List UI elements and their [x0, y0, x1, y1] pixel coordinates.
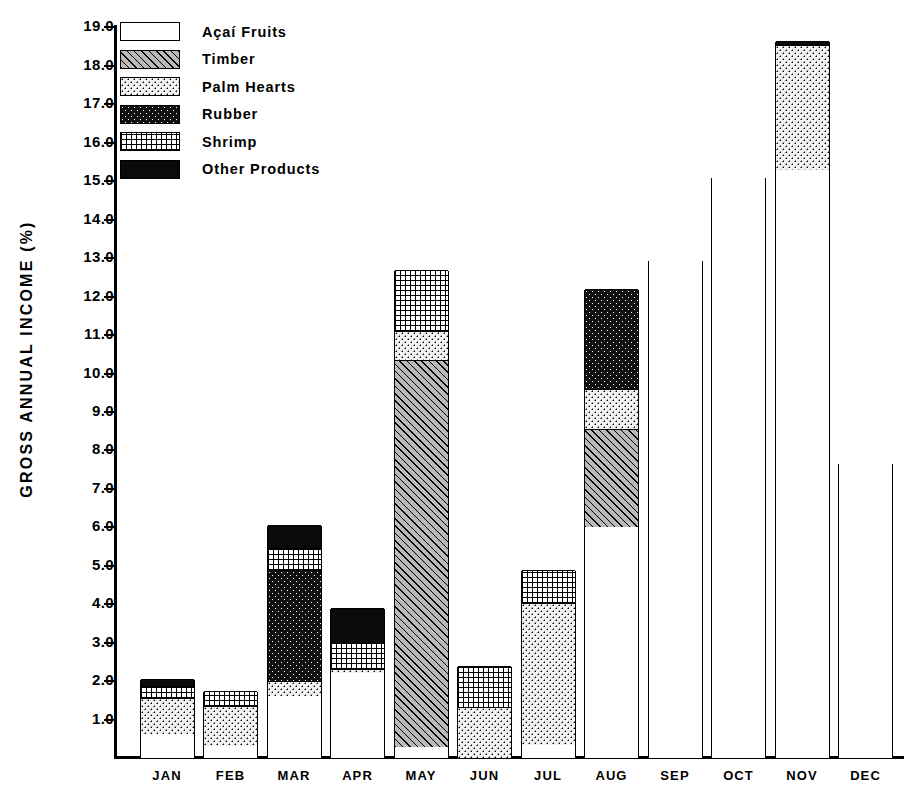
- segment-jan-palm-hearts: [141, 698, 194, 735]
- segment-may-a-a-fruits: [395, 747, 448, 758]
- legend-item-rubber: Rubber: [120, 101, 440, 129]
- segment-apr-shrimp: [331, 643, 384, 669]
- segment-aug-a-a-fruits: [585, 527, 638, 758]
- segment-jan-shrimp: [141, 686, 194, 698]
- segment-apr-a-a-fruits: [331, 673, 384, 758]
- segment-may-timber: [395, 360, 448, 747]
- x-label-nov: NOV: [786, 768, 817, 783]
- legend-swatch-icon: [120, 132, 180, 151]
- segment-mar-palm-hearts: [268, 681, 321, 696]
- segment-apr-palm-hearts: [331, 669, 384, 674]
- x-label-may: MAY: [406, 768, 437, 783]
- segment-nov-a-a-fruits: [776, 170, 829, 758]
- segment-nov-other-products: [776, 41, 829, 45]
- x-label-dec: DEC: [850, 768, 881, 783]
- bar-aug: [584, 290, 639, 759]
- legend-item-palm-hearts: Palm Hearts: [120, 73, 440, 101]
- segment-jul-a-a-fruits: [522, 745, 575, 758]
- bar-jul: [521, 571, 576, 759]
- legend-label: Palm Hearts: [202, 79, 296, 95]
- bar-mar: [267, 526, 322, 759]
- x-label-oct: OCT: [723, 768, 754, 783]
- segment-jul-shrimp: [522, 570, 575, 604]
- bar-sep: [648, 261, 703, 759]
- legend-item-other-products: Other Products: [120, 156, 440, 184]
- segment-mar-shrimp: [268, 548, 321, 569]
- x-label-feb: FEB: [216, 768, 245, 783]
- x-label-jun: JUN: [470, 768, 499, 783]
- legend-swatch-icon: [120, 77, 180, 96]
- segment-mar-other-products: [268, 525, 321, 548]
- y-axis-title: GROSS ANNUAL INCOME (%): [18, 209, 36, 509]
- legend-label: Other Products: [202, 161, 320, 177]
- x-label-mar: MAR: [278, 768, 311, 783]
- bar-oct: [711, 178, 766, 759]
- segment-feb-a-a-fruits: [204, 746, 257, 758]
- bar-feb: [203, 692, 258, 759]
- bar-may: [394, 271, 449, 759]
- segment-feb-shrimp: [204, 691, 257, 706]
- segment-jul-palm-hearts: [522, 603, 575, 744]
- segment-may-shrimp: [395, 270, 448, 332]
- segment-dec-a-a-fruits: [839, 463, 892, 758]
- legend-label: Shrimp: [202, 134, 257, 150]
- legend-item-shrimp: Shrimp: [120, 128, 440, 156]
- chart-legend: Açaí FruitsTimberPalm HeartsRubberShrimp…: [120, 18, 440, 183]
- legend-swatch-icon: [120, 50, 180, 69]
- segment-aug-timber: [585, 429, 638, 527]
- legend-label: Açaí Fruits: [202, 24, 287, 40]
- x-label-sep: SEP: [660, 768, 689, 783]
- segment-feb-palm-hearts: [204, 706, 257, 746]
- segment-apr-other-products: [331, 608, 384, 643]
- segment-may-palm-hearts: [395, 331, 448, 360]
- x-label-apr: APR: [342, 768, 373, 783]
- legend-swatch-icon: [120, 22, 180, 41]
- stacked-bar-chart: GROSS ANNUAL INCOME (%) 19.018.017.016.0…: [0, 0, 915, 797]
- segment-jun-palm-hearts: [458, 708, 511, 758]
- legend-label: Timber: [202, 51, 255, 67]
- bar-nov: [775, 42, 830, 759]
- bar-jun: [457, 667, 512, 759]
- legend-label: Rubber: [202, 106, 258, 122]
- bar-jan: [140, 680, 195, 759]
- segment-jun-shrimp: [458, 666, 511, 708]
- bar-apr: [330, 609, 385, 759]
- segment-jan-other-products: [141, 679, 194, 686]
- legend-item-timber: Timber: [120, 46, 440, 74]
- x-label-jan: JAN: [152, 768, 181, 783]
- legend-swatch-icon: [120, 160, 180, 179]
- segment-mar-a-a-fruits: [268, 696, 321, 758]
- x-label-jul: JUL: [534, 768, 562, 783]
- legend-swatch-icon: [120, 105, 180, 124]
- legend-item-a-a-fruits: Açaí Fruits: [120, 18, 440, 46]
- segment-mar-rubber: [268, 570, 321, 682]
- x-label-aug: AUG: [595, 768, 627, 783]
- segment-sep-a-a-fruits: [649, 260, 702, 758]
- segment-jan-a-a-fruits: [141, 734, 194, 758]
- segment-aug-rubber: [585, 289, 638, 389]
- segment-nov-palm-hearts: [776, 45, 829, 170]
- segment-aug-palm-hearts: [585, 389, 638, 429]
- bar-dec: [838, 464, 893, 759]
- segment-oct-a-a-fruits: [712, 177, 765, 758]
